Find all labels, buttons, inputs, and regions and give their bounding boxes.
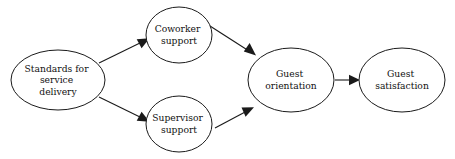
- node-orientation[interactable]: Guest orientation: [248, 48, 334, 112]
- node-label-orientation-line-1: orientation: [265, 79, 317, 90]
- edge-orientation-to-satisfaction: [335, 75, 360, 85]
- node-label-coworker: Coworker support: [155, 23, 204, 46]
- diagram-container: Standards for service delivery Coworker …: [0, 0, 455, 159]
- node-label-orientation-line-0: Guest: [276, 68, 303, 79]
- node-label-standards-line-2: delivery: [39, 85, 77, 96]
- node-label-satisfaction-line-0: Guest: [387, 68, 414, 79]
- node-label-supervisor-line-1: support: [161, 123, 197, 134]
- edge-standards-to-supervisor: [99, 97, 150, 122]
- node-label-standards-line-1: service: [40, 74, 73, 85]
- arrowhead-icon-coworker-orientation: [244, 43, 256, 56]
- edge-line-coworker-orientation: [210, 26, 249, 51]
- node-label-supervisor-line-0: Supervisor: [152, 112, 203, 123]
- edge-line-standards-coworker: [99, 42, 142, 63]
- edge-line-standards-supervisor: [99, 97, 142, 118]
- node-label-standards-line-0: Standards for: [25, 62, 90, 73]
- node-label-coworker-line-1: support: [161, 34, 197, 45]
- edge-supervisor-to-orientation: [215, 107, 254, 128]
- node-label-satisfaction-line-1: satisfaction: [375, 79, 429, 90]
- arrowhead-icon-orientation-satisfaction: [349, 75, 360, 85]
- arrowhead-icon-supervisor-orientation: [242, 107, 255, 116]
- node-coworker[interactable]: Coworker support: [146, 7, 212, 63]
- edge-line-supervisor-orientation: [215, 111, 247, 128]
- node-satisfaction[interactable]: Guest satisfaction: [359, 48, 445, 112]
- edge-coworker-to-orientation: [210, 26, 256, 56]
- edge-standards-to-coworker: [99, 38, 150, 63]
- node-group: Standards for service delivery Coworker …: [11, 7, 445, 152]
- node-supervisor[interactable]: Supervisor support: [146, 96, 212, 152]
- node-label-coworker-line-0: Coworker: [155, 23, 201, 34]
- diagram-canvas: Standards for service delivery Coworker …: [0, 0, 455, 159]
- node-standards[interactable]: Standards for service delivery: [11, 50, 105, 110]
